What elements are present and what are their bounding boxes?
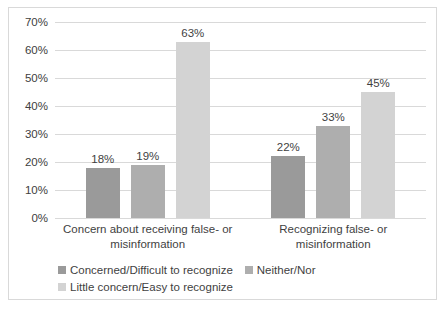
legend-swatch-icon bbox=[58, 283, 66, 291]
legend-row: Concerned/Difficult to recognizeNeither/… bbox=[58, 261, 438, 278]
legend-item[interactable]: Little concern/Easy to recognize bbox=[58, 281, 233, 293]
plot-area: 70%60%50%40%30%20%10%0% 18%19%63%22%33%4… bbox=[55, 22, 426, 218]
legend-swatch-icon bbox=[58, 266, 66, 274]
bar: 19% bbox=[131, 165, 165, 218]
legend-item[interactable]: Neither/Nor bbox=[245, 264, 316, 276]
bar: 63% bbox=[176, 42, 210, 218]
legend-swatch-icon bbox=[245, 266, 253, 274]
y-axis-tick-label: 20% bbox=[25, 156, 48, 168]
y-axis-tick-label: 70% bbox=[25, 16, 48, 28]
bar-value-label: 33% bbox=[322, 111, 345, 123]
bar: 33% bbox=[316, 126, 350, 218]
bar: 18% bbox=[86, 168, 120, 218]
y-axis-tick-label: 30% bbox=[25, 128, 48, 140]
bar-value-label: 63% bbox=[181, 27, 204, 39]
bar-value-label: 45% bbox=[367, 77, 390, 89]
bar-value-label: 19% bbox=[136, 150, 159, 162]
y-axis-tick-label: 50% bbox=[25, 72, 48, 84]
x-axis-category-label: Recognizing false- or misinformation bbox=[241, 222, 427, 252]
legend-label: Neither/Nor bbox=[257, 264, 316, 276]
bar-value-label: 18% bbox=[91, 153, 114, 165]
y-axis-tick-label: 40% bbox=[25, 100, 48, 112]
bar: 22% bbox=[271, 156, 305, 218]
y-axis-tick-label: 0% bbox=[31, 212, 48, 224]
chart-container: 70%60%50%40%30%20%10%0% 18%19%63%22%33%4… bbox=[8, 7, 437, 300]
legend-label: Concerned/Difficult to recognize bbox=[70, 264, 233, 276]
x-axis-category-label: Concern about receiving false- ormisinfo… bbox=[55, 222, 241, 252]
legend-row: Little concern/Easy to recognize bbox=[58, 278, 438, 295]
gridline bbox=[55, 218, 426, 219]
bars-layer: 18%19%63%22%33%45% bbox=[55, 22, 426, 218]
bar: 45% bbox=[361, 92, 395, 218]
x-axis-category-labels: Concern about receiving false- ormisinfo… bbox=[55, 222, 426, 260]
legend-item[interactable]: Concerned/Difficult to recognize bbox=[58, 264, 233, 276]
y-axis-tick-label: 60% bbox=[25, 44, 48, 56]
y-axis-tick-label: 10% bbox=[25, 184, 48, 196]
legend-label: Little concern/Easy to recognize bbox=[70, 281, 233, 293]
bar-value-label: 22% bbox=[277, 141, 300, 153]
chart-legend: Concerned/Difficult to recognizeNeither/… bbox=[9, 261, 438, 295]
